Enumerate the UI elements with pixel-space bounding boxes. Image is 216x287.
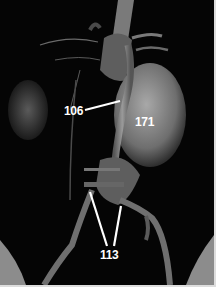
label-106: 106 [64,104,83,118]
label-113: 113 [100,248,118,262]
label-171: 171 [135,115,154,129]
leader-line-113b [114,206,121,246]
ct-angiography-image: 106 171 113 [0,0,216,287]
leader-line-113a [90,192,107,246]
vascular-rendering [0,0,214,285]
